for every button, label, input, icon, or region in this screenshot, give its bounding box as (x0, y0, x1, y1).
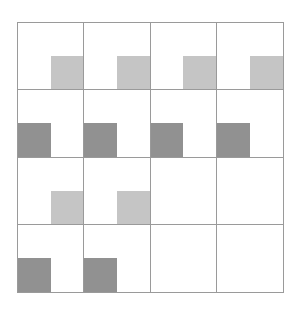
grid-cell-r2c4 (217, 90, 283, 157)
grid-cell-r3c2 (84, 158, 150, 225)
grid-cell-r2c1 (18, 90, 84, 157)
shaded-quadrant-dark (84, 123, 117, 156)
grid-cell-r1c4 (217, 23, 283, 90)
grid-cell-r4c1 (18, 225, 84, 292)
grid-cell-r3c4 (217, 158, 283, 225)
grid-cell-r2c2 (84, 90, 150, 157)
grid-cell-r4c3 (151, 225, 217, 292)
grid-cell-r3c3 (151, 158, 217, 225)
shaded-quadrant-dark (18, 258, 51, 292)
shaded-quadrant-dark (84, 258, 117, 292)
grid-cell-r2c3 (151, 90, 217, 157)
shaded-quadrant-dark (217, 123, 250, 156)
grid-cell-r3c1 (18, 158, 84, 225)
shaded-quadrant-light (183, 56, 216, 89)
grid-cell-r1c2 (84, 23, 150, 90)
shaded-quadrant-light (250, 56, 283, 89)
shaded-quadrant-dark (151, 123, 184, 156)
shaded-quadrant-light (117, 56, 150, 89)
shaded-quadrant-light (51, 191, 84, 224)
shaded-quadrant-dark (18, 123, 51, 156)
shading-grid (17, 22, 284, 293)
shaded-quadrant-light (117, 191, 150, 224)
grid-cell-r1c3 (151, 23, 217, 90)
figure-canvas (0, 0, 299, 314)
grid-cell-r4c4 (217, 225, 283, 292)
shaded-quadrant-light (51, 56, 84, 89)
grid-cell-r1c1 (18, 23, 84, 90)
grid-cell-r4c2 (84, 225, 150, 292)
